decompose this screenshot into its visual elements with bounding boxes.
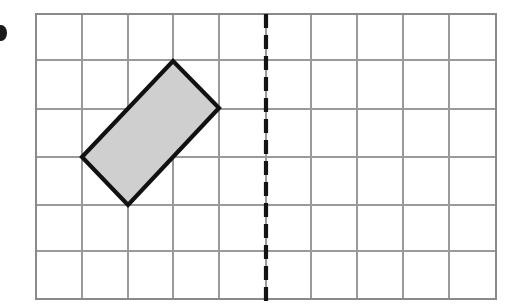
canvas-background — [0, 0, 517, 308]
grid-figure-svg: Coordinate grid with a shaded rectangle … — [0, 0, 517, 308]
figure-container: Coordinate grid with a shaded rectangle … — [0, 0, 517, 308]
